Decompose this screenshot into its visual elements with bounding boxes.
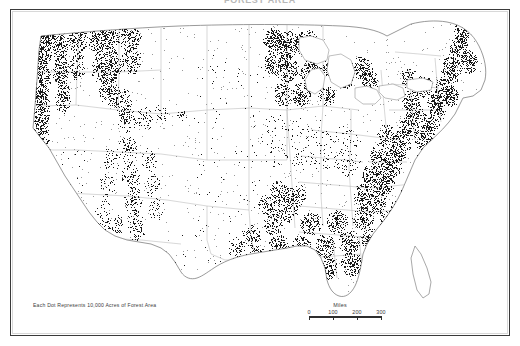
scale-bar: Miles 0 100 200 300 xyxy=(307,302,389,321)
scale-tick-label: 200 xyxy=(352,309,361,315)
scale-bar-tick xyxy=(381,316,382,320)
page-root: FOREST AREA xyxy=(0,0,520,346)
scale-tick-label: 300 xyxy=(376,309,385,315)
florida-outline xyxy=(411,246,431,298)
national-boundary-layer xyxy=(33,21,486,297)
scale-bar-labels: 0 100 200 300 xyxy=(307,309,389,316)
forest-dot-density-map xyxy=(11,10,509,335)
scale-bar-tick xyxy=(357,316,358,320)
map-stage xyxy=(11,10,509,335)
scale-bar-rule xyxy=(307,316,389,321)
title-strip: FOREST AREA xyxy=(0,0,520,9)
scale-tick-label: 0 xyxy=(307,309,310,315)
scale-bar-tick xyxy=(309,316,310,320)
scale-bar-line xyxy=(309,316,381,318)
scale-bar-title: Miles xyxy=(291,302,389,308)
scale-tick-label: 100 xyxy=(328,309,337,315)
map-frame: Each Dot Represents 10,000 Acres of Fore… xyxy=(10,9,510,336)
scale-bar-tick xyxy=(333,316,334,320)
legend-caption: Each Dot Represents 10,000 Acres of Fore… xyxy=(33,302,156,308)
page-title: FOREST AREA xyxy=(224,0,296,5)
